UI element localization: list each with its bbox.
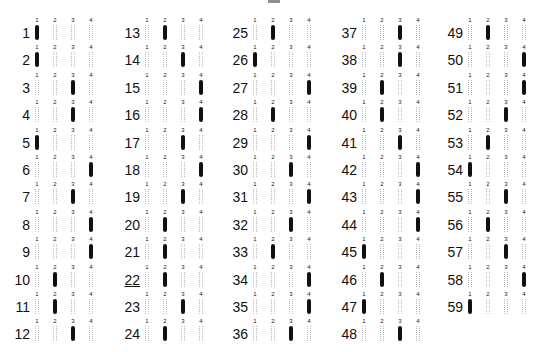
answer-bubble-3[interactable] [71,272,75,287]
answer-bubble-3[interactable] [504,162,508,177]
answer-bubble-4[interactable] [522,25,526,40]
answer-bubble-2[interactable] [380,135,384,150]
answer-bubble-1[interactable] [35,299,39,314]
answer-bubble-1[interactable] [145,244,149,259]
answer-bubble-4[interactable] [89,107,93,122]
answer-bubble-1[interactable] [362,189,366,204]
answer-bubble-1[interactable] [362,52,366,67]
answer-bubble-4-filled[interactable] [89,162,93,177]
answer-bubble-4[interactable] [307,25,311,40]
answer-bubble-2-filled[interactable] [271,244,275,259]
answer-bubble-2[interactable] [486,299,490,314]
answer-bubble-2[interactable] [271,135,275,150]
answer-bubble-1[interactable] [253,80,257,95]
answer-bubble-4[interactable] [307,52,311,67]
answer-bubble-4[interactable] [307,244,311,259]
answer-bubble-3-filled[interactable] [181,189,185,204]
answer-bubble-4[interactable] [307,162,311,177]
answer-bubble-4[interactable] [522,217,526,232]
answer-bubble-3[interactable] [289,52,293,67]
answer-bubble-1[interactable] [362,107,366,122]
answer-bubble-2[interactable] [271,80,275,95]
answer-bubble-4-filled[interactable] [307,272,311,287]
answer-bubble-3-filled[interactable] [289,162,293,177]
answer-bubble-3-filled[interactable] [504,189,508,204]
answer-bubble-4-filled[interactable] [307,299,311,314]
answer-bubble-3[interactable] [71,162,75,177]
answer-bubble-2[interactable] [271,299,275,314]
answer-bubble-4-filled[interactable] [416,217,420,232]
answer-bubble-3-filled[interactable] [71,80,75,95]
answer-bubble-1[interactable] [253,299,257,314]
answer-bubble-2[interactable] [163,80,167,95]
answer-bubble-2[interactable] [380,52,384,67]
answer-bubble-3[interactable] [71,52,75,67]
answer-bubble-3[interactable] [504,52,508,67]
answer-bubble-3[interactable] [504,272,508,287]
answer-bubble-1-filled[interactable] [35,135,39,150]
answer-bubble-4[interactable] [416,25,420,40]
answer-bubble-3-filled[interactable] [504,244,508,259]
answer-bubble-4[interactable] [522,189,526,204]
answer-bubble-1[interactable] [468,80,472,95]
answer-bubble-2[interactable] [53,80,57,95]
answer-bubble-4-filled[interactable] [199,80,203,95]
answer-bubble-2[interactable] [380,326,384,341]
answer-bubble-2[interactable] [486,162,490,177]
answer-bubble-2-filled[interactable] [163,217,167,232]
answer-bubble-4[interactable] [89,272,93,287]
answer-bubble-1[interactable] [362,162,366,177]
answer-bubble-4-filled[interactable] [89,244,93,259]
answer-bubble-2-filled[interactable] [486,135,490,150]
answer-bubble-2-filled[interactable] [486,217,490,232]
answer-bubble-2-filled[interactable] [380,107,384,122]
answer-bubble-2[interactable] [271,189,275,204]
answer-bubble-2-filled[interactable] [53,299,57,314]
answer-bubble-2-filled[interactable] [53,272,57,287]
answer-bubble-2[interactable] [163,162,167,177]
answer-bubble-1[interactable] [362,135,366,150]
answer-bubble-3-filled[interactable] [398,326,402,341]
answer-bubble-2[interactable] [53,135,57,150]
answer-bubble-3[interactable] [289,244,293,259]
answer-bubble-1[interactable] [35,80,39,95]
answer-bubble-2[interactable] [53,217,57,232]
answer-bubble-4[interactable] [199,217,203,232]
answer-bubble-4-filled[interactable] [89,217,93,232]
answer-bubble-4[interactable] [522,299,526,314]
answer-bubble-1[interactable] [253,25,257,40]
answer-bubble-2-filled[interactable] [163,326,167,341]
answer-bubble-2[interactable] [486,80,490,95]
answer-bubble-4[interactable] [89,135,93,150]
answer-bubble-3-filled[interactable] [289,217,293,232]
answer-bubble-1[interactable] [145,217,149,232]
answer-bubble-1[interactable] [35,162,39,177]
answer-bubble-2[interactable] [53,162,57,177]
answer-bubble-2[interactable] [486,52,490,67]
answer-bubble-3[interactable] [289,189,293,204]
answer-bubble-2[interactable] [380,25,384,40]
answer-bubble-2[interactable] [53,189,57,204]
answer-bubble-4[interactable] [199,299,203,314]
answer-bubble-3[interactable] [181,244,185,259]
answer-bubble-2[interactable] [271,326,275,341]
answer-bubble-2[interactable] [380,217,384,232]
answer-bubble-1[interactable] [145,189,149,204]
answer-bubble-2[interactable] [380,299,384,314]
answer-bubble-3-filled[interactable] [181,299,185,314]
answer-bubble-2[interactable] [53,25,57,40]
answer-bubble-3[interactable] [398,272,402,287]
answer-bubble-2-filled[interactable] [271,107,275,122]
answer-bubble-1[interactable] [145,272,149,287]
answer-bubble-4-filled[interactable] [199,107,203,122]
answer-bubble-4[interactable] [199,326,203,341]
answer-bubble-1[interactable] [35,244,39,259]
answer-bubble-4-filled[interactable] [416,189,420,204]
answer-bubble-2[interactable] [163,299,167,314]
answer-bubble-2-filled[interactable] [163,25,167,40]
answer-bubble-1[interactable] [468,25,472,40]
answer-bubble-3[interactable] [398,217,402,232]
answer-bubble-2[interactable] [163,107,167,122]
answer-bubble-1-filled[interactable] [468,162,472,177]
answer-bubble-1[interactable] [468,217,472,232]
